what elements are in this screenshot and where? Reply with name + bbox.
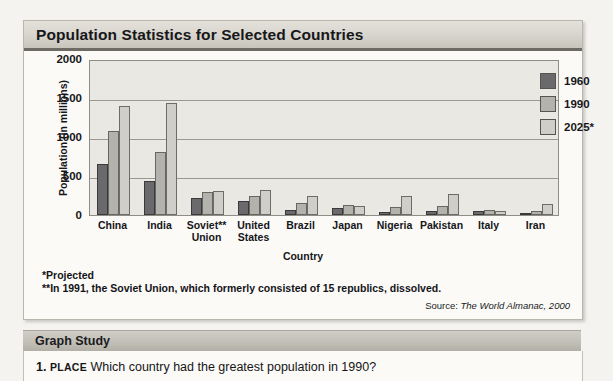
- bar-group: [473, 61, 506, 215]
- bar: [213, 191, 224, 215]
- x-axis-label: Iran: [506, 220, 565, 232]
- figure-title-bar: Population Statistics for Selected Count…: [24, 21, 582, 51]
- bar: [332, 208, 343, 215]
- question-number: 1.: [36, 360, 46, 374]
- page-background: Population Statistics for Selected Count…: [0, 0, 613, 381]
- bar: [144, 181, 155, 215]
- bar: [307, 196, 318, 215]
- legend-swatch: [540, 73, 556, 89]
- bar-group: [379, 61, 412, 215]
- page-title: Population Statistics for Selected Count…: [36, 26, 363, 44]
- bar: [155, 152, 166, 215]
- bar: [119, 106, 130, 215]
- bar: [520, 213, 531, 215]
- bar-chart: Population (in millions) 050010001500200…: [24, 54, 582, 284]
- source-text: The World Almanac, 2000: [461, 300, 570, 311]
- bar: [249, 196, 260, 216]
- bar-group: [144, 61, 177, 215]
- bar: [437, 206, 448, 215]
- bar: [97, 164, 108, 215]
- legend-label: 1960: [564, 75, 590, 87]
- legend-item: 2025*: [540, 117, 613, 136]
- chart-legend: 196019902025*: [540, 71, 613, 140]
- bar: [285, 210, 296, 215]
- legend-swatch: [540, 96, 556, 112]
- x-axis-label-line: Iran: [506, 220, 565, 232]
- footnotes: *Projected **In 1991, the Soviet Union, …: [42, 269, 441, 295]
- bar: [260, 190, 271, 215]
- study-question-1: 1. PLACE Which country had the greatest …: [36, 360, 376, 374]
- graph-study-title: Graph Study: [35, 334, 110, 348]
- footnote-soviet: **In 1991, the Soviet Union, which forme…: [42, 282, 441, 295]
- bar: [343, 205, 354, 215]
- legend-swatch: [540, 119, 556, 135]
- bar: [202, 192, 213, 215]
- bar: [379, 212, 390, 215]
- bar: [238, 201, 249, 215]
- y-tick-label: 0: [42, 209, 82, 221]
- source-prefix: Source:: [425, 300, 458, 311]
- bar-group: [191, 61, 224, 215]
- y-tick-label: 500: [42, 170, 82, 182]
- bar-group: [97, 61, 130, 215]
- y-tick-label: 2000: [42, 53, 82, 65]
- bar: [531, 211, 542, 215]
- graph-study-header: Graph Study: [23, 330, 581, 352]
- bar-group: [238, 61, 271, 215]
- x-axis-title: Country: [24, 250, 582, 262]
- graph-study-body: 1. PLACE Which country had the greatest …: [23, 351, 583, 381]
- legend-label: 1990: [564, 98, 590, 110]
- bar-group: [426, 61, 459, 215]
- bar: [296, 203, 307, 215]
- bar-group: [332, 61, 365, 215]
- bar: [390, 207, 401, 215]
- bar: [484, 210, 495, 215]
- y-tick-label: 1000: [42, 131, 82, 143]
- bar: [354, 206, 365, 215]
- question-theme: PLACE: [50, 361, 87, 373]
- figure-card: Population Statistics for Selected Count…: [23, 20, 583, 320]
- source-line: Source: The World Almanac, 2000: [425, 300, 570, 311]
- bar: [495, 211, 506, 215]
- bar: [108, 131, 119, 215]
- bar-group: [285, 61, 318, 215]
- bar: [166, 103, 177, 215]
- bar: [542, 204, 553, 215]
- bar: [448, 194, 459, 215]
- legend-label: 2025*: [564, 121, 594, 133]
- bar: [473, 211, 484, 215]
- footnote-projected: *Projected: [42, 269, 441, 282]
- y-tick-label: 1500: [42, 92, 82, 104]
- plot-area: 196019902025*: [89, 60, 559, 216]
- bar: [401, 196, 412, 215]
- x-axis-label-line: States: [224, 232, 283, 244]
- question-text: Which country had the greatest populatio…: [91, 360, 377, 374]
- bar: [426, 211, 437, 215]
- legend-item: 1960: [540, 71, 613, 90]
- bar: [191, 198, 202, 215]
- legend-item: 1990: [540, 94, 613, 113]
